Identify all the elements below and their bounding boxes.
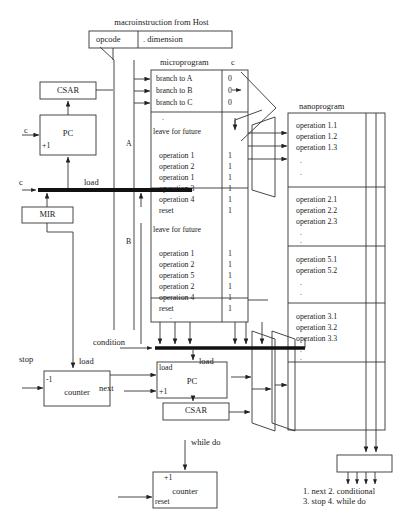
nanoprogram-dot: .	[300, 158, 302, 165]
microprogram-row-c: 0	[228, 99, 232, 107]
counter-decrement-label: -1	[46, 376, 53, 384]
microprogram-row-c: 1	[228, 305, 232, 313]
legend-line-1: 1. next 2. conditional	[303, 487, 375, 496]
counter-reset-label: reset	[155, 498, 170, 506]
microprogram-ellipsis: .	[162, 114, 164, 122]
nanoprogram-dot: .	[300, 170, 302, 177]
microprogram-row-text: operation 2	[159, 163, 194, 171]
nanoprogram-row: operation 2.1	[296, 196, 337, 204]
macroinstruction-title: macroinstruction from Host	[99, 18, 224, 27]
csar-top-label: CSAR	[40, 86, 96, 95]
microprogram-row-text: operation 3	[159, 185, 194, 193]
csar-bottom-label: CSAR	[163, 406, 229, 415]
c-signal-lower-label: c	[19, 178, 23, 187]
nanoprogram-row: operation 1.1	[296, 122, 337, 130]
pc-bottom-increment-label: +1	[159, 388, 167, 396]
microprogram-row-c: 1	[228, 196, 232, 204]
bus-load-label: load	[84, 178, 99, 187]
microprogram-row-text: operation 2	[159, 261, 194, 269]
nanoprogram-row: operation 2.3	[296, 218, 337, 226]
legend-line-2: 3. stop 4. while do	[303, 497, 366, 506]
nanoprogram-title: nanoprogram	[299, 102, 344, 111]
nanoprogram-dot: .	[300, 238, 302, 245]
microprogram-row-c: 0	[228, 75, 232, 83]
mir-label: MIR	[22, 210, 73, 219]
microprogram-row-c: 1	[228, 272, 232, 280]
nanoprogram-row: operation 5.1	[296, 256, 337, 264]
condition-label: condition	[93, 338, 125, 347]
stop-label: stop	[19, 355, 33, 364]
c-signal-upper-label: c	[24, 126, 28, 135]
pc-load-bus-label: load	[199, 357, 214, 366]
microprogram-row-c: 1	[228, 294, 232, 302]
microprogram-ellipsis: .	[170, 314, 172, 321]
nanoprogram-row: operation 5.2	[296, 267, 337, 275]
microprogram-row-text: operation 2	[159, 283, 194, 291]
microprogram-row-c: 1	[228, 261, 232, 269]
microprogram-row-text: operation 5	[159, 272, 194, 280]
microprogram-row-c: 1	[228, 163, 232, 171]
microprogram-row-text: operation 1	[159, 174, 194, 182]
pc-top-label: PC	[40, 129, 96, 138]
microprogram-row-text: operation 4	[159, 196, 194, 204]
microprogram-title: microprogram	[160, 58, 209, 67]
microprogram-row-text: operation 4	[159, 294, 194, 302]
microprogram-row-text: branch to A	[156, 75, 192, 83]
pc-bottom-load-label: load	[159, 364, 172, 372]
microprogram-row-text: reset	[159, 207, 174, 215]
nanoprogram-row: operation 1.3	[296, 144, 337, 152]
nanoprogram-row: operation 3.2	[296, 324, 337, 332]
microprogram-row-c: 0	[228, 87, 232, 95]
nanoprogram-row: operation 3.3	[296, 335, 337, 343]
microprogram-row-c: 1	[228, 152, 232, 160]
nanoprogram-row: operation 3.1	[296, 313, 337, 321]
microprogram-c-header: c	[231, 58, 235, 67]
microprogram-row-c: 1	[228, 185, 232, 193]
microprogram-row-c: 1	[228, 174, 232, 182]
leave-for-future-label: leave for future	[153, 226, 201, 234]
next-label: next	[99, 384, 114, 393]
microprogram-row-c: 1	[228, 207, 232, 215]
nanoprogram-row: operation 1.2	[296, 133, 337, 141]
dimension-label: . dimension	[143, 35, 183, 44]
microprogram-section-a-label: A	[126, 140, 132, 148]
diagram-canvas: macroinstruction from Host opcode . dime…	[0, 0, 412, 522]
microprogram-row-c: 1	[228, 283, 232, 291]
nanoprogram-dot: .	[300, 290, 302, 297]
pc-bottom-label: PC	[157, 377, 227, 386]
nanoprogram-dot: .	[300, 355, 302, 362]
nanoprogram-dot: .	[300, 280, 302, 287]
opcode-label: opcode	[96, 35, 121, 44]
microprogram-row-text: operation 1	[159, 152, 194, 160]
counter-load-label: load	[79, 357, 94, 366]
pc-top-increment-label: +1	[42, 142, 50, 150]
microprogram-section-b-label: B	[126, 238, 131, 246]
microprogram-row-text: branch to C	[156, 99, 192, 107]
while-do-label: while do	[191, 438, 221, 447]
leave-for-future-label: leave for future	[153, 128, 201, 136]
microprogram-row-c: 1	[228, 250, 232, 258]
microprogram-row-text: branch to B	[156, 87, 192, 95]
counter-bottom-label: counter	[153, 487, 217, 496]
counter-bottom-increment-label: +1	[164, 474, 172, 482]
microprogram-row-text: operation 1	[159, 250, 194, 258]
nanoprogram-row: operation 2.2	[296, 207, 337, 215]
